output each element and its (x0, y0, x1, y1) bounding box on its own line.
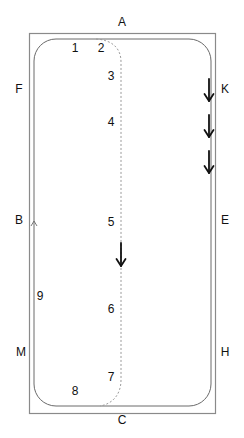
letter-c: C (118, 414, 127, 426)
arrow-down-icon (117, 243, 126, 266)
letter-a: A (118, 16, 126, 28)
riding-track (34, 39, 211, 406)
arrow-down-icon (205, 79, 214, 101)
point-6: 6 (108, 303, 115, 315)
arena-diagram (0, 0, 244, 438)
arrow-down-icon (205, 115, 214, 137)
letter-f: F (15, 83, 22, 95)
point-9: 9 (37, 290, 44, 302)
letter-h: H (221, 346, 230, 358)
point-1: 1 (72, 42, 79, 54)
letter-e: E (221, 214, 229, 226)
point-5: 5 (108, 216, 115, 228)
letter-b: B (15, 214, 23, 226)
letter-m: M (16, 346, 26, 358)
point-8: 8 (72, 385, 79, 397)
arrow-down-icon (205, 151, 214, 173)
arena-boundary (30, 34, 216, 414)
point-3: 3 (108, 70, 115, 82)
point-2: 2 (98, 42, 105, 54)
point-4: 4 (108, 116, 115, 128)
letter-k: K (221, 83, 229, 95)
point-7: 7 (108, 371, 115, 383)
